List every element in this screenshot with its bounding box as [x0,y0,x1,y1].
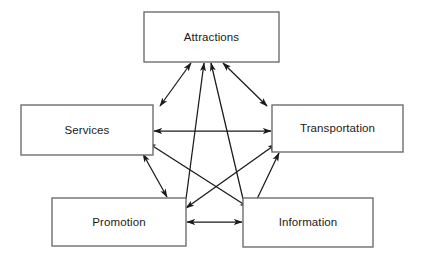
node-label-information: Information [279,216,338,228]
edge-services-attractions [160,63,191,106]
node-label-promotion: Promotion [92,216,145,228]
edge-services-promotion [143,154,167,197]
node-label-transportation: Transportation [300,122,375,134]
diagram-svg: AttractionsServicesTransportationPromoti… [0,0,424,259]
node-promotion[interactable]: Promotion [52,198,186,246]
diagram-canvas: AttractionsServicesTransportationPromoti… [0,0,424,259]
node-label-services: Services [65,124,110,136]
node-information[interactable]: Information [243,198,373,247]
node-label-attractions: Attractions [184,31,240,43]
node-transportation[interactable]: Transportation [272,105,403,152]
node-attractions[interactable]: Attractions [144,12,279,62]
nodes-layer: AttractionsServicesTransportationPromoti… [21,12,403,247]
node-services[interactable]: Services [21,105,153,155]
edge-transportation-attractions [223,63,267,106]
edge-information-transportation [257,153,279,199]
